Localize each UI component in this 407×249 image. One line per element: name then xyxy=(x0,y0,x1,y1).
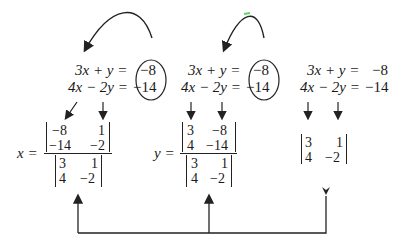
eq2-lhs: 4x − 2y = xyxy=(300,80,360,95)
fraction-bar xyxy=(44,153,112,154)
curved-arrow-1 xyxy=(85,13,152,50)
eq1-lhs: 3x + y = xyxy=(75,63,127,78)
eq2-lhs: 4x − 2y = xyxy=(181,80,241,95)
x-label: x = xyxy=(17,146,38,161)
eq2-rhs: −14 xyxy=(246,80,269,95)
eq2-lhs: 4x − 2y = xyxy=(68,80,128,95)
eq2-rhs: −14 xyxy=(365,80,388,95)
curved-arrow-2 xyxy=(224,16,264,50)
y-label: y = xyxy=(154,146,175,161)
fraction-bar xyxy=(180,153,237,154)
eq1-lhs: 3x + y = xyxy=(188,63,240,78)
eq1-rhs: −8 xyxy=(140,63,156,78)
eq2-rhs: −14 xyxy=(133,80,156,95)
eq1-rhs: −8 xyxy=(372,63,388,78)
eq1-rhs: −8 xyxy=(253,63,269,78)
eq1-lhs: 3x + y = xyxy=(307,63,359,78)
